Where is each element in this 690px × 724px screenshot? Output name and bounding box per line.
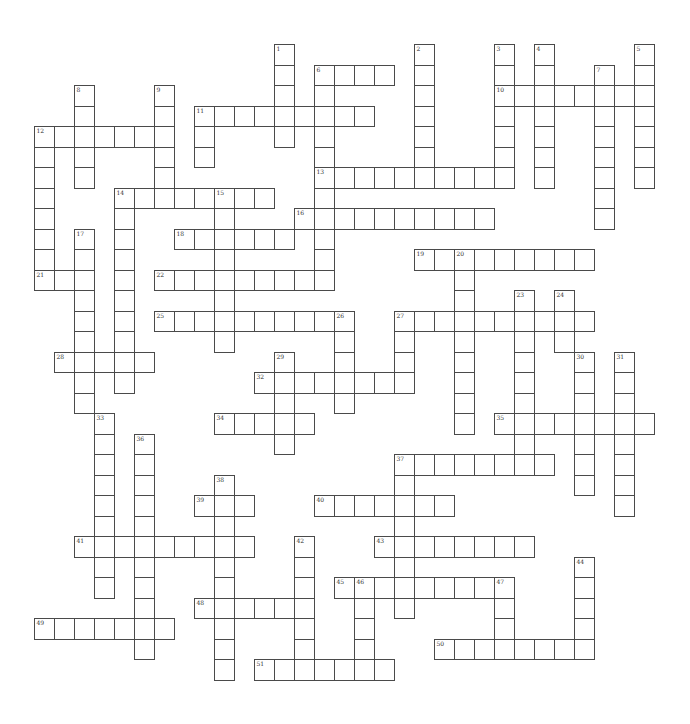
crossword-cell[interactable] (394, 352, 415, 374)
crossword-cell[interactable] (94, 126, 115, 148)
crossword-cell[interactable] (274, 372, 295, 394)
crossword-cell[interactable]: 40 (314, 495, 335, 517)
crossword-cell[interactable] (554, 249, 575, 271)
crossword-cell[interactable] (434, 167, 455, 189)
crossword-cell[interactable] (214, 639, 235, 661)
crossword-cell[interactable] (514, 249, 535, 271)
crossword-cell[interactable] (254, 188, 275, 210)
crossword-cell[interactable] (94, 557, 115, 579)
crossword-cell[interactable]: 41 (74, 536, 95, 558)
crossword-cell[interactable] (334, 331, 355, 353)
crossword-cell[interactable] (534, 106, 555, 128)
crossword-cell[interactable] (274, 598, 295, 620)
crossword-cell[interactable] (594, 208, 615, 230)
crossword-cell[interactable] (354, 167, 375, 189)
crossword-cell[interactable] (174, 536, 195, 558)
crossword-cell[interactable] (594, 147, 615, 169)
crossword-cell[interactable] (634, 85, 655, 107)
crossword-cell[interactable] (114, 229, 135, 251)
crossword-cell[interactable] (334, 65, 355, 87)
crossword-cell[interactable] (54, 270, 75, 292)
crossword-cell[interactable] (294, 311, 315, 333)
crossword-cell[interactable] (494, 249, 515, 271)
crossword-cell[interactable] (414, 311, 435, 333)
crossword-cell[interactable] (94, 352, 115, 374)
crossword-cell[interactable]: 32 (254, 372, 275, 394)
crossword-cell[interactable] (494, 618, 515, 640)
crossword-cell[interactable] (334, 106, 355, 128)
crossword-cell[interactable] (274, 393, 295, 415)
crossword-cell[interactable] (574, 249, 595, 271)
crossword-cell[interactable] (334, 208, 355, 230)
crossword-cell[interactable] (214, 229, 235, 251)
crossword-cell[interactable] (534, 147, 555, 169)
crossword-cell[interactable] (414, 65, 435, 87)
crossword-cell[interactable] (114, 249, 135, 271)
crossword-cell[interactable] (94, 475, 115, 497)
crossword-cell[interactable] (114, 372, 135, 394)
crossword-cell[interactable] (254, 311, 275, 333)
crossword-cell[interactable] (54, 126, 75, 148)
crossword-cell[interactable] (454, 372, 475, 394)
crossword-cell[interactable] (354, 65, 375, 87)
crossword-cell[interactable] (334, 659, 355, 681)
crossword-cell[interactable] (594, 126, 615, 148)
crossword-cell[interactable] (574, 393, 595, 415)
crossword-cell[interactable] (134, 598, 155, 620)
crossword-cell[interactable] (274, 229, 295, 251)
crossword-cell[interactable] (594, 188, 615, 210)
crossword-cell[interactable] (494, 536, 515, 558)
crossword-cell[interactable] (374, 577, 395, 599)
crossword-cell[interactable] (354, 659, 375, 681)
crossword-cell[interactable] (554, 311, 575, 333)
crossword-cell[interactable] (74, 331, 95, 353)
crossword-cell[interactable] (374, 65, 395, 87)
crossword-cell[interactable] (74, 393, 95, 415)
crossword-cell[interactable] (74, 290, 95, 312)
crossword-cell[interactable] (154, 106, 175, 128)
crossword-cell[interactable]: 33 (94, 413, 115, 435)
crossword-cell[interactable] (214, 290, 235, 312)
crossword-cell[interactable] (534, 126, 555, 148)
crossword-cell[interactable] (434, 454, 455, 476)
crossword-cell[interactable] (414, 577, 435, 599)
crossword-cell[interactable]: 35 (494, 413, 515, 435)
crossword-cell[interactable] (94, 495, 115, 517)
crossword-cell[interactable] (274, 270, 295, 292)
crossword-cell[interactable] (174, 188, 195, 210)
crossword-cell[interactable]: 24 (554, 290, 575, 312)
crossword-cell[interactable] (414, 85, 435, 107)
crossword-cell[interactable] (114, 290, 135, 312)
crossword-cell[interactable] (254, 106, 275, 128)
crossword-cell[interactable]: 45 (334, 577, 355, 599)
crossword-cell[interactable] (514, 536, 535, 558)
crossword-cell[interactable] (634, 167, 655, 189)
crossword-cell[interactable]: 43 (374, 536, 395, 558)
crossword-cell[interactable] (314, 208, 335, 230)
crossword-cell[interactable] (94, 454, 115, 476)
crossword-cell[interactable] (134, 188, 155, 210)
crossword-cell[interactable] (594, 413, 615, 435)
crossword-cell[interactable] (534, 454, 555, 476)
crossword-cell[interactable] (334, 167, 355, 189)
crossword-cell[interactable] (214, 208, 235, 230)
crossword-cell[interactable] (574, 413, 595, 435)
crossword-cell[interactable] (294, 557, 315, 579)
crossword-cell[interactable] (374, 495, 395, 517)
crossword-cell[interactable] (274, 106, 295, 128)
crossword-cell[interactable] (354, 598, 375, 620)
crossword-cell[interactable] (534, 85, 555, 107)
crossword-cell[interactable] (474, 536, 495, 558)
crossword-cell[interactable]: 8 (74, 85, 95, 107)
crossword-cell[interactable] (234, 495, 255, 517)
crossword-cell[interactable]: 22 (154, 270, 175, 292)
crossword-cell[interactable] (134, 557, 155, 579)
crossword-cell[interactable]: 36 (134, 434, 155, 456)
crossword-cell[interactable]: 25 (154, 311, 175, 333)
crossword-cell[interactable] (434, 249, 455, 271)
crossword-cell[interactable] (634, 147, 655, 169)
crossword-cell[interactable] (394, 495, 415, 517)
crossword-cell[interactable] (514, 372, 535, 394)
crossword-cell[interactable] (454, 393, 475, 415)
crossword-cell[interactable]: 48 (194, 598, 215, 620)
